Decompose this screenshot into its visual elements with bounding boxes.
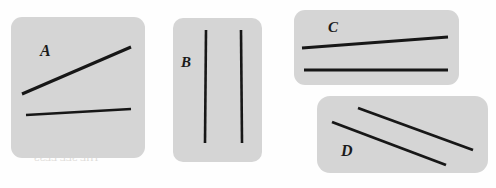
panel-c-upper-line xyxy=(302,37,448,48)
panel-a-upper-line xyxy=(22,47,131,94)
panel-c xyxy=(294,10,459,85)
panel-b-right-line xyxy=(241,30,242,143)
panel-c-label: C xyxy=(328,20,338,35)
panel-b xyxy=(173,18,262,162)
panel-d-label: D xyxy=(341,143,353,159)
panel-a-label: A xyxy=(40,43,51,59)
figure-canvas: The seenbe visiblenoticeConnecting ofvar… xyxy=(0,0,496,188)
panel-b-left-line xyxy=(205,30,206,143)
panel-a-lines xyxy=(11,17,145,158)
panel-c-lines xyxy=(294,10,459,85)
panel-b-lines xyxy=(173,18,262,162)
panel-a-lower-line xyxy=(26,109,131,115)
panel-d xyxy=(317,96,488,173)
panel-b-label: B xyxy=(181,55,191,70)
panel-d-lines xyxy=(317,96,488,173)
panel-a xyxy=(11,17,145,158)
panel-d-upper-line xyxy=(358,108,473,150)
